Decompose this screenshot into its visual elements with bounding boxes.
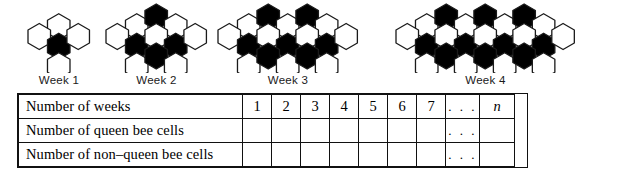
- value-cell[interactable]: [243, 119, 272, 143]
- nth-term-cell[interactable]: n: [480, 95, 515, 119]
- row-label-cell: Number of non–queen bee cells: [19, 143, 243, 167]
- non-queen-bee-cell-hexagon: [335, 24, 358, 50]
- value-cell[interactable]: [301, 143, 330, 167]
- value-cell[interactable]: [272, 119, 301, 143]
- nth-term-cell[interactable]: [480, 143, 515, 167]
- value-cell[interactable]: 5: [359, 95, 388, 119]
- value-cell[interactable]: [388, 119, 417, 143]
- non-queen-bee-cell-hexagon: [184, 24, 207, 50]
- week-1-hex-grid: [26, 0, 92, 73]
- value-cell[interactable]: [388, 143, 417, 167]
- ellipsis-text: . . .: [448, 147, 477, 163]
- value-cell[interactable]: 6: [388, 95, 417, 119]
- value-cell[interactable]: 3: [301, 95, 330, 119]
- value-cell[interactable]: [272, 143, 301, 167]
- week-1-label: Week 1: [26, 74, 92, 86]
- week-2-diagram: Week 2: [104, 0, 209, 86]
- ellipsis-text: . . .: [448, 123, 477, 139]
- table-body: Number of weeks1234567. . .nNumber of qu…: [19, 95, 515, 167]
- week-2-hex-grid: [104, 0, 209, 73]
- ellipsis-cell: . . .: [446, 143, 480, 167]
- ellipsis-cell: . . .: [446, 95, 480, 119]
- value-cell[interactable]: [417, 143, 446, 167]
- row-label-cell: Number of queen bee cells: [19, 119, 243, 143]
- value-cell[interactable]: [330, 143, 359, 167]
- non-queen-bee-cell-hexagon: [552, 24, 575, 50]
- week-1-diagram: Week 1: [26, 0, 92, 86]
- week-3-label: Week 3: [216, 74, 360, 86]
- table-row: Number of weeks1234567. . .n: [19, 95, 515, 119]
- non-queen-bee-cell-hexagon: [67, 24, 90, 50]
- value-cell[interactable]: 1: [243, 95, 272, 119]
- value-cell[interactable]: [330, 119, 359, 143]
- honeycomb-diagram-row: Week 1Week 2Week 3Week 4: [0, 0, 636, 88]
- non-queen-bee-cell-hexagon: [47, 53, 70, 73]
- value-cell[interactable]: [359, 119, 388, 143]
- table-row: Number of queen bee cells. . .: [19, 119, 515, 143]
- value-cell[interactable]: [417, 119, 446, 143]
- week-4-diagram: Week 4: [394, 0, 577, 86]
- week-2-label: Week 2: [104, 74, 209, 86]
- table-row: Number of non–queen bee cells. . .: [19, 143, 515, 167]
- week-3-diagram: Week 3: [216, 0, 360, 86]
- nth-term-cell[interactable]: [480, 119, 515, 143]
- value-cell[interactable]: [243, 143, 272, 167]
- week-3-hex-grid: [216, 0, 360, 73]
- value-cell[interactable]: 2: [272, 95, 301, 119]
- ellipsis-text: . . .: [448, 99, 477, 115]
- value-cell[interactable]: [301, 119, 330, 143]
- bee-cells-data-table: Number of weeks1234567. . .nNumber of qu…: [18, 94, 515, 167]
- value-cell[interactable]: [359, 143, 388, 167]
- value-cell[interactable]: 4: [330, 95, 359, 119]
- week-4-label: Week 4: [394, 74, 577, 86]
- value-cell[interactable]: 7: [417, 95, 446, 119]
- row-label-cell: Number of weeks: [19, 95, 243, 119]
- ellipsis-cell: . . .: [446, 119, 480, 143]
- week-4-hex-grid: [394, 0, 577, 73]
